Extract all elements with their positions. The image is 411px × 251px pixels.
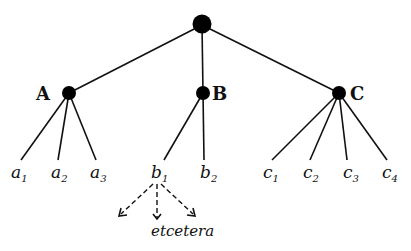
leaf-c4: c4 [382, 162, 398, 184]
svg-text:b1: b1 [151, 162, 168, 184]
leaf-a1: a1 [11, 162, 28, 184]
svg-text:a3: a3 [90, 162, 107, 184]
edge-A-a2 [58, 93, 69, 160]
leaf-a2: a2 [51, 162, 68, 184]
edge-root-B [202, 25, 203, 93]
node-A [62, 86, 76, 100]
leaf-c2: c2 [303, 162, 319, 184]
svg-text:c3: c3 [343, 162, 359, 184]
edge-root-A [69, 25, 202, 93]
svg-text:a2: a2 [51, 162, 68, 184]
edge-A-a3 [69, 93, 96, 160]
svg-text:c1: c1 [263, 162, 279, 184]
label-C: C [350, 83, 364, 104]
etcetera-label: etcetera [151, 222, 214, 240]
svg-text:c4: c4 [382, 162, 398, 184]
svg-text:b2: b2 [200, 162, 217, 184]
label-B: B [212, 83, 227, 104]
dashed-arrow-right [161, 184, 193, 214]
leaf-b2: b2 [200, 162, 217, 184]
svg-text:a1: a1 [11, 162, 28, 184]
label-A: A [35, 83, 51, 104]
edge-B-b1 [164, 93, 203, 160]
leaf-c3: c3 [343, 162, 359, 184]
leaf-b1: b1 [151, 162, 168, 184]
edge-C-c1 [272, 93, 339, 160]
leaf-a3: a3 [90, 162, 107, 184]
edge-B-b2 [203, 93, 204, 160]
continuation-arrows [119, 184, 195, 219]
leaf-c1: c1 [263, 162, 279, 184]
tree-diagram: A B C a1 a2 a3 b1 b2 c1 c2 c3 c4 etceter… [0, 0, 411, 251]
svg-text:c2: c2 [303, 162, 319, 184]
root-node [193, 15, 212, 34]
node-C [332, 86, 346, 100]
dashed-arrow-left [121, 184, 153, 214]
node-B [196, 86, 210, 100]
edge-C-c2 [310, 93, 339, 160]
